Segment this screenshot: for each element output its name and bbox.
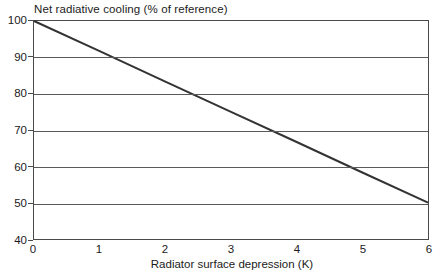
x-tick-label-6: 6: [417, 243, 441, 256]
gridline-y-70: [34, 131, 428, 132]
y-tick-mark-50: [28, 203, 33, 204]
y-tick-label-70: 70: [0, 124, 27, 136]
plot-area: [33, 20, 429, 240]
x-tick-label-4: 4: [285, 243, 309, 256]
y-tick-label-80: 80: [0, 87, 27, 99]
x-tick-label-2: 2: [153, 243, 177, 256]
y-tick-label-90: 90: [0, 51, 27, 63]
y-tick-mark-70: [28, 130, 33, 131]
x-tick-label-5: 5: [351, 243, 375, 256]
x-axis-title-text: Radiator surface depression (K): [151, 258, 313, 271]
gridline-y-60: [34, 167, 428, 168]
chart-title: Net radiative cooling (% of reference): [34, 2, 228, 16]
y-tick-mark-90: [28, 56, 33, 57]
y-tick-label-50: 50: [0, 197, 27, 209]
x-tick-label-0: 0: [21, 243, 45, 256]
y-tick-label-60: 60: [0, 161, 27, 173]
x-tick-label-3: 3: [219, 243, 243, 256]
y-tick-mark-40: [28, 240, 33, 241]
y-tick-mark-80: [28, 93, 33, 94]
gridline-y-80: [34, 94, 428, 95]
y-tick-label-100: 100: [0, 14, 27, 26]
gridline-y-50: [34, 204, 428, 205]
x-tick-label-1: 1: [87, 243, 111, 256]
y-tick-mark-100: [28, 20, 33, 21]
x-axis-title: Radiator surface depression (K): [0, 258, 442, 271]
gridline-y-90: [34, 57, 428, 58]
chart-figure: Net radiative cooling (% of reference) R…: [0, 0, 442, 274]
series-line-net-radiative-cooling: [34, 21, 428, 203]
y-tick-mark-60: [28, 166, 33, 167]
